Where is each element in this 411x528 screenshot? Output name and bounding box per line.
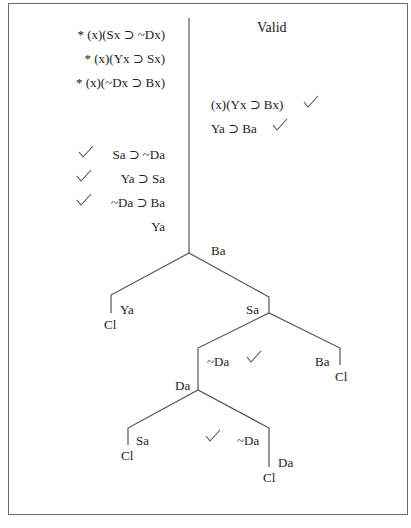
- instantiation-sa-da: Sa ⊃ ~Da: [90, 147, 165, 162]
- checkmark-icon: [246, 350, 262, 364]
- node-not-da-leaf: ~Da: [237, 433, 259, 448]
- closed-marker: Cl: [104, 317, 116, 332]
- node-sa-leaf: Sa: [136, 433, 149, 448]
- checkmark-icon: [205, 429, 221, 443]
- node-ba-root: Ba: [211, 243, 225, 258]
- closed-marker: Cl: [335, 369, 347, 384]
- checkmark-icon: [303, 95, 319, 109]
- node-da: Da: [175, 378, 190, 393]
- closed-marker: Cl: [263, 470, 275, 485]
- premise-3: * (x)(~Dx ⊃ Bx): [40, 75, 165, 90]
- node-sa: Sa: [246, 302, 259, 317]
- instantiation-da-ba: ~Da ⊃ Ba: [90, 195, 165, 210]
- negated-conclusion: (x)(Yx ⊃ Bx): [211, 97, 283, 112]
- premise-2: * (x)(Yx ⊃ Sx): [40, 51, 165, 66]
- ya-line: Ya: [90, 219, 165, 234]
- premise-1: * (x)(Sx ⊃ ~Dx): [40, 27, 165, 42]
- node-ya: Ya: [120, 302, 134, 317]
- closed-marker: Cl: [121, 448, 133, 463]
- instantiation-ya-ba: Ya ⊃ Ba: [211, 121, 257, 136]
- checkmark-icon: [272, 118, 288, 132]
- node-ba: Ba: [315, 354, 329, 369]
- node-da-leaf: Da: [278, 455, 293, 470]
- validity-label: Valid: [257, 20, 287, 35]
- node-not-da: ~Da: [207, 354, 229, 369]
- instantiation-ya-sa: Ya ⊃ Sa: [90, 171, 165, 186]
